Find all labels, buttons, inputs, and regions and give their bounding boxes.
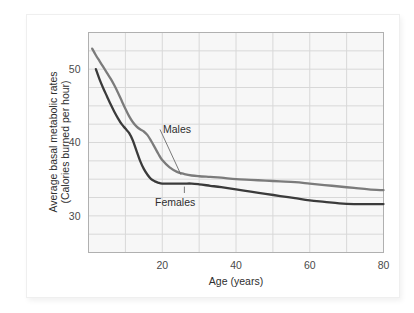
metabolic-rate-line-chart: MalesFemales 20406080 304050 Age (years)… (0, 0, 414, 313)
x-axis-tick-labels: 20406080 (156, 259, 389, 271)
y-tick-label: 30 (69, 210, 81, 222)
y-axis-title-line-1: Average basal metabolic rates (47, 71, 59, 212)
x-tick-label: 80 (378, 259, 390, 271)
screenshot-root: MalesFemales 20406080 304050 Age (years)… (0, 0, 414, 313)
females-annotation-label: Females (155, 196, 195, 208)
x-axis-title: Age (years) (209, 275, 263, 287)
x-tick-label: 40 (230, 259, 242, 271)
males-annotation-label: Males (163, 123, 191, 135)
x-tick-label: 60 (304, 259, 316, 271)
y-axis-title-line-2: (Calories burned per hour) (59, 80, 71, 203)
chart-svg: MalesFemales 20406080 304050 Age (years)… (0, 0, 414, 313)
y-tick-label: 50 (69, 63, 81, 75)
x-tick-label: 20 (156, 259, 168, 271)
